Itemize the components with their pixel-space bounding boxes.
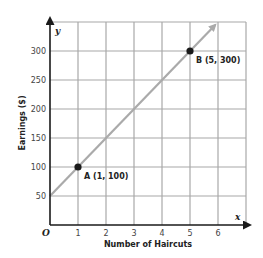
- x-axis-variable: x: [234, 212, 241, 222]
- point-label: A (1, 100): [84, 172, 128, 181]
- x-axis-title: Number of Haircuts: [104, 240, 192, 249]
- x-tick-label: 2: [103, 229, 108, 238]
- y-tick-label: 250: [31, 76, 46, 85]
- y-tick-label: 100: [31, 163, 46, 172]
- y-axis-variable: y: [54, 26, 61, 36]
- y-tick-label: 200: [31, 105, 46, 114]
- y-tick-label: 150: [31, 134, 46, 143]
- point-label: B (5, 300): [196, 56, 240, 65]
- line-chart: yxO12345650100150200250300Number of Hair…: [0, 0, 263, 258]
- data-point: [74, 163, 81, 170]
- origin-label: O: [42, 228, 50, 238]
- chart-container: yxO12345650100150200250300Number of Hair…: [0, 0, 263, 258]
- x-tick-label: 4: [159, 229, 164, 238]
- data-point: [186, 47, 193, 54]
- x-tick-label: 5: [187, 229, 192, 238]
- y-axis-title: Earnings ($): [18, 95, 27, 150]
- y-tick-label: 300: [31, 47, 46, 56]
- x-tick-label: 1: [75, 229, 80, 238]
- y-tick-label: 50: [36, 192, 46, 201]
- x-tick-label: 3: [131, 229, 136, 238]
- x-tick-label: 6: [215, 229, 220, 238]
